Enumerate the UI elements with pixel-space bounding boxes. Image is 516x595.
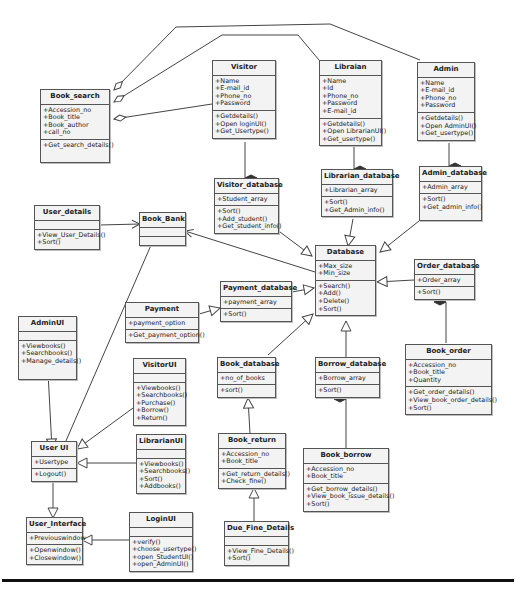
methods-section: +Getdetails() +Open LibrarianUI() +Get_u… <box>320 119 381 146</box>
class-title: Book_Bank <box>140 213 185 228</box>
class-title: AdminUI <box>19 317 76 332</box>
class-title: Admin_database <box>420 167 481 182</box>
method: +Addbooks() <box>139 483 183 491</box>
class-title: Admin <box>418 63 474 78</box>
method: +open_AdminUI() <box>132 561 190 569</box>
class-admin-database: Admin_database +Admin_array +Sort() +Get… <box>419 166 482 221</box>
attributes-section: +Accession_no +Book_title +Quantity <box>406 360 491 388</box>
method: +Get_usertype() <box>420 130 472 138</box>
class-borrow-database: Borrow_database +Borrow_array +Sort() <box>315 357 380 398</box>
class-payment-database: Payment_database +payment_array +Sort() <box>220 281 292 322</box>
method: +Get_search_details() <box>43 142 107 150</box>
class-title: User_details <box>35 206 99 221</box>
attributes-section <box>35 221 99 230</box>
class-title: Libraian <box>320 61 381 76</box>
methods-section: +Get_payment_option() <box>126 330 198 342</box>
attributes-section: +Admin_array <box>420 182 481 195</box>
method: +Get_Usertype() <box>215 128 273 136</box>
attributes-section: +Previouswindow <box>27 533 82 546</box>
attributes-section: +Max_size +Min_size <box>316 261 375 281</box>
methods-section: +View_Fine_Details() +Sort() <box>225 546 288 565</box>
method: +Logout() <box>34 471 74 479</box>
methods-section: +Sort() <box>415 287 474 299</box>
attribute: +E-mail_id <box>322 108 379 116</box>
attribute: +Book_title <box>221 458 283 466</box>
methods-section: +Get_return_details() +Check_fine() <box>219 469 285 488</box>
methods-section: +Openwindow() +Closewindow() <box>27 545 82 564</box>
class-order-database: Order_database +Order_array +Sort() <box>414 259 475 300</box>
gen-visitordb-database <box>280 232 312 256</box>
methods-section: +Sort() +Add_student() +Get_student_info… <box>215 206 278 233</box>
methods-section: +Viewbooks() +Searchbooks() +Sort() +Add… <box>137 459 185 493</box>
attribute: +Order_array <box>417 277 472 285</box>
attributes-section <box>140 228 185 237</box>
attributes-section: +payment_array <box>221 297 291 310</box>
method: +Sort() <box>37 239 97 247</box>
attribute: +Borrow_array <box>318 375 377 383</box>
assoc-database-bookbank <box>185 231 315 272</box>
gen-admindb-database <box>380 221 419 252</box>
methods-section: +Get_order_details() +View_book_order_de… <box>406 387 491 414</box>
gen-orderdb-database <box>377 280 414 282</box>
gen-visitorui-userui <box>77 408 133 449</box>
gen-librariandb-database <box>348 219 353 246</box>
attribute: +Min_size <box>318 270 373 278</box>
class-title: Payment <box>126 303 198 318</box>
method: +Closewindow() <box>29 555 80 563</box>
methods-section: +Get_search_details() <box>41 140 109 162</box>
class-book-order: Book_order +Accession_no +Book_title +Qu… <box>405 344 492 415</box>
attributes-section <box>134 374 185 383</box>
methods-section: +verify() +choose_usertype() +open_Stude… <box>130 537 192 571</box>
class-user-details: User_details +View_User_Details() +Sort(… <box>34 205 100 250</box>
class-title: Book_database <box>218 358 275 373</box>
bottom-divider-rule <box>2 579 514 582</box>
attributes-section: +Librarian_array <box>322 185 392 198</box>
class-visitor-ui: VisitorUI +Viewbooks() +Searchbooks() +P… <box>133 358 186 426</box>
class-title: Payment_database <box>221 282 291 297</box>
method: +Sort() <box>408 405 489 413</box>
class-title: Visitor_database <box>215 179 278 194</box>
methods-section: +Viewbooks() +Searchbooks() +Manage_deta… <box>19 341 76 380</box>
class-librarian: Libraian +Name +Id +Phone_no +Password +… <box>319 60 382 146</box>
methods-section: +Viewbooks() +Searchbooks() +Purchase() … <box>134 383 185 425</box>
class-payment: Payment +payment_option +Get_payment_opt… <box>125 302 199 343</box>
attribute: +Admin_array <box>422 184 479 192</box>
class-book-search: Book_search +Accession_no +Book_title +B… <box>40 89 110 163</box>
class-title: Book_return <box>219 434 285 449</box>
class-book-borrow: Book_borrow +Accession_no +Book_title +G… <box>303 448 389 512</box>
attribute: +Quantity <box>408 377 489 385</box>
class-title: Book_search <box>41 90 109 105</box>
method: +Manage_details() <box>21 358 74 366</box>
attributes-section: +Accession_no +Book_title <box>219 449 285 469</box>
class-visitor: Visitor +Name +E-mail_id +Phone_no +Pass… <box>212 60 276 139</box>
method: +Sort() <box>417 289 472 297</box>
gen-payment-paymentdb <box>199 308 220 314</box>
attributes-section: +Borrow_array <box>316 373 379 386</box>
attribute: +Book_title <box>306 473 386 481</box>
attributes-section: +Name +E-mail_id +Phone_no +Password <box>213 76 275 111</box>
attributes-section <box>137 450 185 459</box>
method: +Get_usertype() <box>322 136 379 144</box>
methods-section: +Getdetails() +Open AdminUI() +Get_usert… <box>418 113 474 140</box>
attributes-section: +Accession_no +Book_title +Book_author +… <box>41 105 109 140</box>
attribute: +call_no <box>43 129 107 137</box>
method: +Get_Admin_info() <box>324 207 390 215</box>
attributes-section <box>225 537 288 546</box>
class-diagram-canvas: Book_search +Accession_no +Book_title +B… <box>0 0 516 595</box>
method: +Return() <box>136 415 183 423</box>
attributes-section: +Name +Id +Phone_no +Password +E-mail_id <box>320 76 381 119</box>
methods-section: +Getdetails() +Open loginUI() +Get_Usert… <box>213 111 275 138</box>
attribute: +Usertype <box>34 459 74 467</box>
class-title: User_Interface <box>27 518 82 533</box>
class-login-ui: LoginUI +verify() +choose_usertype() +op… <box>129 512 193 572</box>
attribute: +Previouswindow <box>29 535 80 543</box>
method: +sort() <box>220 387 273 395</box>
class-title: LibrarianUI <box>137 435 185 450</box>
attribute: +Password <box>215 100 273 108</box>
methods-section: +sort() <box>218 385 275 397</box>
class-visitor-database: Visitor_database +Student_array +Sort() … <box>214 178 279 234</box>
class-user-interface: User_Interface +Previouswindow +Openwind… <box>26 517 83 565</box>
methods-section: +View_User_Details() +Sort() <box>35 230 99 249</box>
method: +Sort() <box>306 501 386 509</box>
gen-bookreturn-bookdb <box>248 398 250 434</box>
